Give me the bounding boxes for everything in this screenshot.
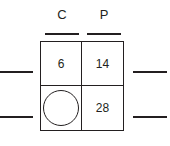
grid-cell-row1-col-p[interactable]: 14: [82, 42, 123, 86]
grid-cell-row2-col-c[interactable]: [41, 86, 82, 130]
grid-cell-row1-col-c[interactable]: 6: [41, 42, 82, 86]
row-blank-left-row1[interactable]: [0, 71, 33, 73]
row-blank-left-row2[interactable]: [0, 116, 33, 118]
row-blank-right-row1[interactable]: [133, 71, 167, 73]
cell-value-row1-col-c: 6: [58, 58, 65, 70]
grid-cell-row2-col-p[interactable]: 28: [82, 86, 123, 130]
cell-value-row1-col-p: 14: [96, 58, 109, 70]
column-header-p: P: [83, 8, 125, 22]
column-header-c: C: [41, 8, 83, 22]
column-header-underline-c: [45, 33, 79, 35]
circle-placeholder-icon: [43, 90, 79, 126]
cell-value-row2-col-p: 28: [96, 102, 109, 114]
worksheet-figure: C P 6 14 28: [0, 0, 170, 146]
column-header-underline-p: [87, 33, 121, 35]
value-grid: 6 14 28: [40, 41, 124, 131]
row-blank-right-row2[interactable]: [133, 116, 167, 118]
